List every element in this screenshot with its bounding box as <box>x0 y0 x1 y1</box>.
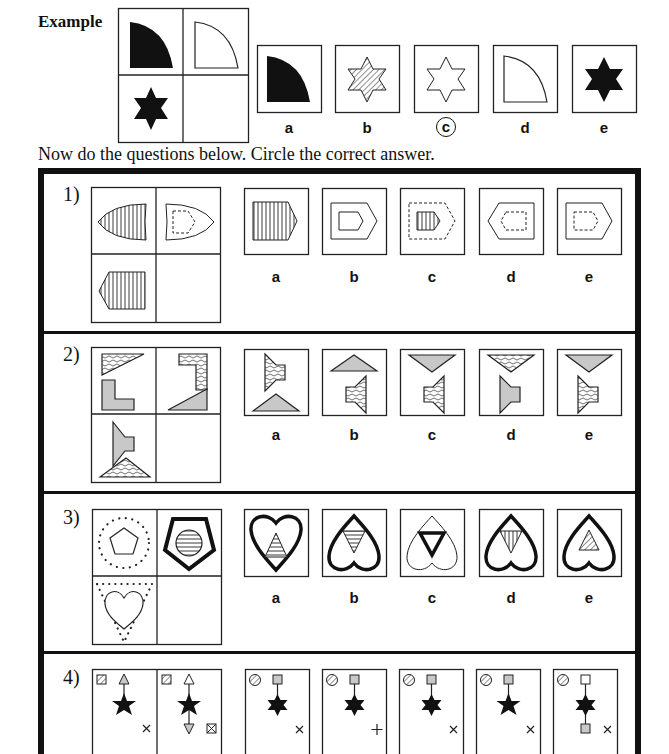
question-1-label-c[interactable]: c <box>400 268 464 285</box>
question-2-option-d[interactable] <box>479 349 544 416</box>
example-option-e[interactable] <box>572 45 637 113</box>
question-2-grid <box>91 347 221 483</box>
instruction-text: Now do the questions below. Circle the c… <box>38 144 435 165</box>
answer-circle: c <box>436 117 456 137</box>
question-4-option-c[interactable] <box>399 669 464 749</box>
question-3-label-c[interactable]: c <box>400 589 464 606</box>
question-1-label-e[interactable]: e <box>557 268 621 285</box>
question-2-option-a[interactable] <box>244 349 309 416</box>
question-1-option-c[interactable] <box>400 188 465 255</box>
example-grid <box>118 8 249 143</box>
question-1-label-b[interactable]: b <box>322 268 386 285</box>
example-label-b[interactable]: b <box>335 119 399 136</box>
question-3-option-d[interactable] <box>479 509 544 577</box>
question-2-label-c[interactable]: c <box>400 426 464 443</box>
example-option-d[interactable] <box>493 45 558 113</box>
divider <box>38 491 641 494</box>
example-label: Example <box>38 12 102 32</box>
question-3-label-d[interactable]: d <box>479 589 543 606</box>
question-1-option-a[interactable] <box>244 188 309 255</box>
question-3-option-a[interactable] <box>244 509 309 577</box>
divider <box>38 331 641 334</box>
example-label-a[interactable]: a <box>257 119 321 136</box>
question-3-grid <box>92 509 222 645</box>
question-2-label-d[interactable]: d <box>479 426 543 443</box>
question-2-label-b[interactable]: b <box>322 426 386 443</box>
question-4-option-d[interactable] <box>476 669 541 749</box>
question-2-option-c[interactable] <box>400 349 465 416</box>
question-number: 3) <box>63 506 80 529</box>
question-2-option-e[interactable] <box>557 349 622 416</box>
example-label-c-circled[interactable]: c <box>414 117 478 137</box>
question-3-label-e[interactable]: e <box>557 589 621 606</box>
question-1-grid <box>91 187 221 323</box>
question-1-label-d[interactable]: d <box>479 268 543 285</box>
divider <box>38 651 641 654</box>
example-label-e[interactable]: e <box>572 119 636 136</box>
question-4-option-b[interactable] <box>322 669 387 749</box>
question-2-option-b[interactable] <box>322 349 387 416</box>
question-number: 4) <box>63 666 80 689</box>
example-option-a[interactable] <box>257 45 322 113</box>
question-4-option-e[interactable] <box>553 669 618 749</box>
question-2-label-e[interactable]: e <box>557 426 621 443</box>
question-2-label-a[interactable]: a <box>244 426 308 443</box>
question-4-option-a[interactable] <box>245 669 310 749</box>
question-3-option-b[interactable] <box>322 509 387 577</box>
example-option-c[interactable] <box>414 45 479 113</box>
question-1-option-d[interactable] <box>479 188 544 255</box>
question-3-option-e[interactable] <box>557 509 622 577</box>
question-number: 1) <box>63 183 80 206</box>
question-4-grid <box>92 669 222 749</box>
question-number: 2) <box>63 343 80 366</box>
question-3-option-c[interactable] <box>400 509 465 577</box>
question-1-option-b[interactable] <box>322 188 387 255</box>
question-1-option-e[interactable] <box>557 188 622 255</box>
question-3-label-b[interactable]: b <box>322 589 386 606</box>
question-3-label-a[interactable]: a <box>244 589 308 606</box>
example-label-d[interactable]: d <box>493 119 557 136</box>
example-option-b[interactable] <box>335 45 400 113</box>
question-1-label-a[interactable]: a <box>244 268 308 285</box>
